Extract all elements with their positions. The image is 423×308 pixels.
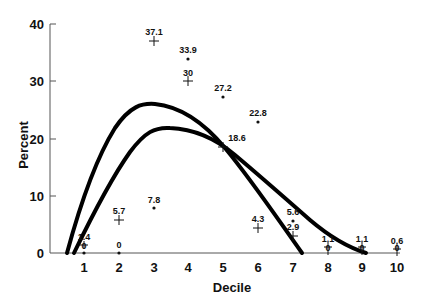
fitted-curve-narrow: [67, 104, 302, 253]
y-tick-label: 0: [37, 246, 44, 261]
dot-value-label: 27.2: [214, 83, 232, 93]
dot-value-label: 0: [116, 240, 121, 250]
x-tick-label: 5: [219, 260, 226, 275]
dot-marker: [186, 57, 189, 60]
x-tick-label: 2: [115, 260, 122, 275]
dot-value-label: 0: [359, 243, 364, 253]
x-tick-label: 10: [390, 260, 404, 275]
dot-value-label: 22.8: [249, 108, 267, 118]
cross-marker: [253, 223, 263, 233]
cross-value-label: 30: [183, 68, 193, 78]
cross-value-label: 4.3: [252, 214, 265, 224]
cross-value-label: 2.9: [287, 222, 300, 232]
x-tick-label: 7: [289, 260, 296, 275]
x-tick-label: 9: [358, 260, 365, 275]
y-tick-label: 40: [30, 17, 44, 32]
dot-marker: [82, 251, 85, 254]
dot-value-label: 7.8: [148, 195, 161, 205]
dot-marker: [152, 206, 155, 209]
dot-marker: [256, 120, 259, 123]
cross-marker: [149, 36, 159, 46]
cross-value-label: 18.6: [228, 133, 246, 143]
x-tick-label: 6: [254, 260, 261, 275]
x-tick-label: 1: [80, 260, 87, 275]
cross-marker: [114, 215, 124, 225]
x-axis: 1 2 3 4 5 6 7 8 9 10 Decile: [50, 253, 404, 295]
x-tick-label: 3: [150, 260, 157, 275]
y-tick-label: 10: [30, 189, 44, 204]
dot-value-label: 0: [81, 241, 86, 251]
cross-value-label: 5.7: [113, 206, 126, 216]
x-axis-title: Decile: [213, 280, 251, 295]
dot-value-label: 0: [394, 243, 399, 253]
dot-value-label: 0: [325, 243, 330, 253]
dot-value-label: 33.9: [179, 45, 197, 55]
x-tick-label: 8: [324, 260, 331, 275]
cross-series: 1.4 5.7 37.1 30 18.6 4.3 2.9 1.1 1.1 0.6: [78, 27, 404, 256]
x-tick-label: 4: [184, 260, 192, 275]
decile-percent-chart: 0 10 20 30 40 Percent 1 2 3 4 5 6 7 8 9 …: [0, 0, 423, 308]
dot-value-label: 5.6: [287, 207, 300, 217]
dot-marker: [117, 251, 120, 254]
y-tick-label: 20: [30, 132, 44, 147]
y-axis-title: Percent: [16, 120, 31, 168]
dot-marker: [291, 219, 294, 222]
y-tick-label: 30: [30, 74, 44, 89]
dot-marker: [221, 95, 224, 98]
y-axis: 0 10 20 30 40 Percent: [16, 17, 56, 261]
cross-value-label: 37.1: [145, 27, 163, 37]
